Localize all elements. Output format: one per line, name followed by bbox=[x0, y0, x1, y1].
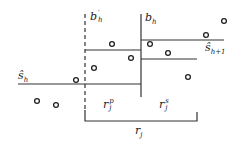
data-point bbox=[74, 78, 79, 83]
data-point bbox=[92, 66, 97, 71]
label-r-j-p: rpj bbox=[103, 98, 114, 112]
data-points bbox=[35, 19, 227, 108]
label-r-j: rj bbox=[135, 125, 142, 139]
data-point bbox=[148, 42, 153, 47]
data-point bbox=[204, 33, 209, 38]
diagram-canvas bbox=[0, 0, 238, 143]
data-point bbox=[222, 19, 227, 24]
data-point bbox=[166, 51, 171, 56]
data-point bbox=[129, 56, 134, 61]
bracket-r-j bbox=[85, 110, 197, 121]
data-point bbox=[186, 75, 191, 80]
label-b-h-prime: b′h bbox=[90, 10, 103, 24]
data-point bbox=[35, 99, 40, 104]
data-point bbox=[110, 42, 115, 47]
label-r-j-s: rsj bbox=[159, 98, 169, 112]
data-point bbox=[54, 103, 59, 108]
label-s-hat-h: ŝh bbox=[18, 70, 28, 84]
label-b-h: bh bbox=[145, 12, 157, 26]
label-s-hat-h1: ŝh+1 bbox=[205, 42, 225, 56]
